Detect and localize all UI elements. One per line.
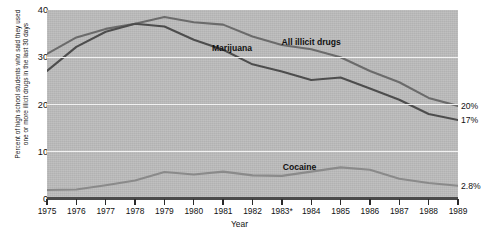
x-tick-mark — [134, 199, 135, 205]
x-tick-label: 1986 — [361, 206, 380, 216]
x-tick-mark — [164, 199, 165, 205]
x-tick-mark — [222, 199, 223, 205]
gridline — [47, 57, 458, 58]
series-label-cocaine: Cocaine — [283, 162, 316, 172]
x-tick-label: 1987 — [390, 206, 409, 216]
series-label-all-illicit-drugs: All illicit drugs — [282, 37, 341, 47]
series-label-marijuana: Marijuana — [212, 43, 252, 53]
x-tick-label: 1982 — [243, 206, 262, 216]
x-tick-mark — [369, 199, 370, 205]
x-tick-label: 1976 — [67, 206, 86, 216]
x-tick-mark — [46, 199, 47, 205]
x-tick-mark — [105, 199, 106, 205]
end-value-all-illicit-drugs: 20% — [461, 101, 478, 111]
x-tick-label: 1988 — [419, 206, 438, 216]
x-tick-mark — [76, 199, 77, 205]
x-tick-label: 1985 — [331, 206, 350, 216]
x-axis-title: Year — [0, 219, 479, 229]
x-tick-mark — [281, 199, 282, 205]
x-tick-label: 1984 — [302, 206, 321, 216]
x-tick-mark — [428, 199, 429, 205]
x-tick-label: 1983* — [271, 206, 293, 216]
gridline — [47, 151, 458, 152]
x-tick-mark — [399, 199, 400, 205]
end-value-cocaine: 2.8% — [461, 181, 481, 191]
x-tick-label: 1989 — [449, 206, 468, 216]
x-tick-label: 1979 — [155, 206, 174, 216]
x-tick-label: 1981 — [214, 206, 233, 216]
x-tick-label: 1980 — [184, 206, 203, 216]
x-tick-label: 1977 — [96, 206, 115, 216]
x-tick-mark — [311, 199, 312, 205]
x-tick-mark — [252, 199, 253, 205]
x-tick-mark — [193, 199, 194, 205]
x-tick-mark — [457, 199, 458, 205]
plot-area — [47, 10, 458, 199]
x-tick-label: 1978 — [126, 206, 145, 216]
gridline — [47, 104, 458, 105]
x-tick-label: 1975 — [38, 206, 57, 216]
series-line — [47, 167, 458, 190]
y-axis-ticks: 010203040 — [26, 0, 48, 210]
end-value-marijuana: 17% — [461, 115, 478, 125]
series-line — [47, 24, 458, 120]
x-tick-mark — [340, 199, 341, 205]
